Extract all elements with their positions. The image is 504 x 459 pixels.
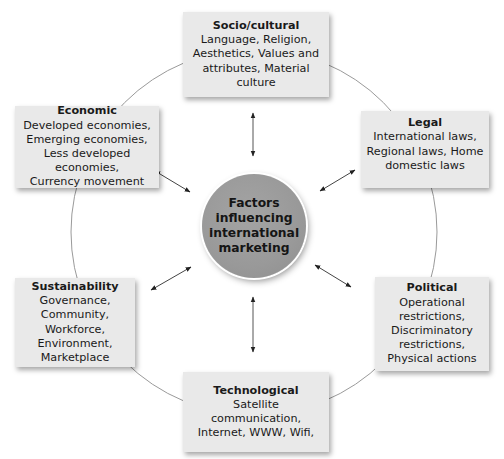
factor-line: Developed economies, [23, 119, 151, 133]
factor-line: Governance, [39, 294, 110, 308]
center-label-line: marketing [209, 241, 299, 256]
factor-line: International laws, [373, 130, 476, 144]
factor-line: attributes, Material [202, 62, 309, 76]
factor-line: Physical actions [387, 352, 476, 366]
arrow-legal [320, 170, 355, 191]
factor-title: Sustainability [31, 280, 118, 294]
arrow-political [315, 265, 351, 287]
diagram-canvas: Socio/cultural Language, Religion, Aesth… [0, 0, 504, 459]
factor-title: Political [407, 281, 458, 295]
factor-line: Regional laws, Home [367, 145, 484, 159]
center-label-line: Factors [209, 196, 299, 211]
factor-line: restrictions, [399, 310, 465, 324]
factor-line: Internet, WWW, Wifi, [198, 426, 314, 440]
factor-box-sustainability: Sustainability Governance, Community, Wo… [15, 278, 135, 367]
factor-line: domestic laws [385, 159, 465, 173]
factor-line: restrictions, [399, 338, 465, 352]
factor-title: Socio/cultural [213, 19, 300, 33]
factor-line: Marketplace [41, 351, 110, 365]
center-circle: Factors influencing international market… [202, 174, 306, 278]
factor-line: Currency movement [30, 175, 144, 189]
factor-line: Aesthetics, Values and [193, 47, 319, 61]
arrow-economic [155, 171, 190, 192]
factor-box-political: Political Operational restrictions, Disc… [375, 277, 489, 371]
factor-line: Environment, [38, 337, 113, 351]
factor-line: Satellite communication, [188, 398, 324, 426]
factor-line: economies, [55, 161, 119, 175]
factor-line: culture [236, 76, 275, 90]
factor-title: Technological [213, 384, 298, 398]
factor-box-technological: Technological Satellite communication, I… [183, 372, 329, 452]
factor-line: Emerging economies, [26, 133, 147, 147]
factor-title: Legal [408, 116, 442, 130]
center-label: Factors influencing international market… [209, 196, 299, 256]
factor-box-economic: Economic Developed economies, Emerging e… [15, 106, 159, 188]
factor-line: Less developed [44, 147, 131, 161]
factor-box-legal: Legal International laws, Regional laws,… [361, 111, 489, 188]
arrow-sustainability [151, 267, 191, 290]
factor-line: Community, [41, 308, 109, 322]
factor-box-socio-cultural: Socio/cultural Language, Religion, Aesth… [183, 12, 329, 97]
center-label-line: influencing [209, 211, 299, 226]
factor-line: Workforce, [45, 323, 105, 337]
factor-title: Economic [57, 104, 117, 118]
factor-line: Discriminatory [391, 324, 473, 338]
factor-line: Language, Religion, [201, 33, 311, 47]
factor-line: Operational [399, 296, 465, 310]
center-label-line: international [209, 226, 299, 241]
